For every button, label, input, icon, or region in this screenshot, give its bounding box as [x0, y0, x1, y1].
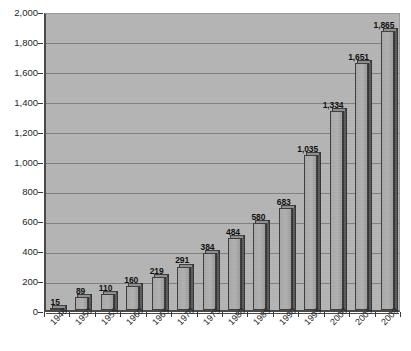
bar[interactable]: [177, 267, 190, 311]
bar[interactable]: [228, 238, 241, 310]
bar-value-label: 1,035: [297, 145, 318, 154]
y-tick-label: 2,000: [14, 8, 38, 18]
bar-side-face: [394, 28, 398, 310]
x-tick-mark: [44, 312, 45, 317]
bar-value-label: 89: [76, 287, 85, 296]
bar[interactable]: [203, 253, 216, 310]
bar-side-face: [343, 108, 347, 310]
y-tick-label: 400: [22, 247, 38, 257]
x-tick-mark: [375, 312, 376, 317]
bar-slot: [381, 14, 398, 310]
bar-value-label: 683: [277, 198, 291, 207]
bar-value-label: 219: [150, 267, 164, 276]
y-tick-label: 1,000: [14, 158, 38, 168]
y-tick-mark: [38, 103, 43, 104]
x-tick-mark: [222, 312, 223, 317]
bar-value-label: 580: [251, 213, 265, 222]
y-tick-mark: [38, 133, 43, 134]
bar-side-face: [139, 283, 143, 310]
x-tick-mark: [120, 312, 121, 317]
bar-slot: [330, 14, 347, 310]
bar-side-face: [292, 205, 296, 310]
y-tick-label: 200: [22, 277, 38, 287]
y-tick-mark: [38, 73, 43, 74]
bar-value-label: 160: [124, 276, 138, 285]
bar-slot: [101, 14, 118, 310]
bar-slot: [304, 14, 321, 310]
bar-side-face: [317, 152, 321, 310]
bar-value-label: 384: [201, 243, 215, 252]
bar-value-label: 291: [175, 256, 189, 265]
y-tick-mark: [38, 312, 43, 313]
bar[interactable]: [279, 208, 292, 310]
y-tick-mark: [38, 192, 43, 193]
bar-side-face: [216, 250, 220, 310]
x-tick-mark: [171, 312, 172, 317]
bar-side-face: [266, 220, 270, 310]
y-tick-label: 800: [22, 187, 38, 197]
x-tick-mark: [197, 312, 198, 317]
y-tick-mark: [38, 43, 43, 44]
x-tick-mark: [146, 312, 147, 317]
bar-value-label: 110: [99, 284, 112, 293]
x-tick-mark: [95, 312, 96, 317]
y-tick-label: 1,800: [14, 38, 38, 48]
y-tick-label: 1,400: [14, 98, 38, 108]
x-tick-mark: [273, 312, 274, 317]
y-tick-mark: [38, 282, 43, 283]
bar-side-face: [190, 264, 194, 311]
bar[interactable]: [304, 155, 317, 310]
bar-value-label: 484: [226, 228, 240, 237]
x-tick-mark: [349, 312, 350, 317]
y-tick-mark: [38, 252, 43, 253]
bar-side-face: [165, 274, 169, 310]
bar-side-face: [368, 60, 372, 310]
bar-slot: [253, 14, 270, 310]
y-tick-mark: [38, 163, 43, 164]
bar-slot: [177, 14, 194, 310]
bar[interactable]: [381, 31, 394, 310]
y-tick-label: 1,200: [14, 128, 38, 138]
y-tick-mark: [38, 222, 43, 223]
bar-slot: [228, 14, 245, 310]
plot-area: [44, 13, 400, 312]
x-tick-mark: [247, 312, 248, 317]
y-tick-label: 600: [22, 217, 38, 227]
bar[interactable]: [330, 111, 343, 310]
bar-value-label: 1,651: [348, 53, 369, 62]
bar[interactable]: [355, 63, 368, 310]
bar-slot: [75, 14, 92, 310]
bar[interactable]: [152, 277, 165, 310]
y-tick-label: 1,600: [14, 68, 38, 78]
bar-slot: [203, 14, 220, 310]
bar-value-label: 1,334: [323, 101, 344, 110]
y-axis: 02004006008001,0001,2001,4001,6001,8002,…: [0, 0, 38, 351]
bar-slot: [50, 14, 67, 310]
bar-chart: 02004006008001,0001,2001,4001,6001,8002,…: [0, 0, 411, 351]
bar-slot: [126, 14, 143, 310]
bar-side-face: [241, 235, 245, 310]
bar-slot: [279, 14, 296, 310]
bar-value-label: 15: [51, 298, 60, 307]
y-tick-mark: [38, 13, 43, 14]
x-tick-mark: [324, 312, 325, 317]
x-tick-mark: [400, 312, 401, 317]
x-tick-mark: [298, 312, 299, 317]
bar[interactable]: [253, 223, 266, 310]
bar-value-label: 1,865: [374, 21, 395, 30]
x-tick-mark: [69, 312, 70, 317]
